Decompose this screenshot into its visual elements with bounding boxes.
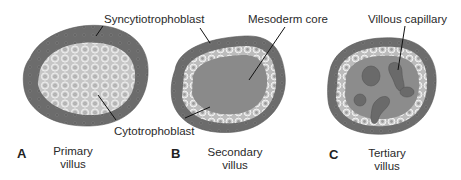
caption-tertiary-villus: Tertiary villus [352, 147, 422, 173]
caption-primary-villus: Primary villus [38, 145, 108, 171]
panel-letter-c: C [329, 147, 338, 162]
label-cytotrophoblast: Cytotrophoblast [114, 125, 195, 138]
label-villous-capillary: Villous capillary [368, 13, 447, 26]
primary-villus [23, 25, 148, 126]
caption-secondary-villus: Secondary villus [200, 146, 270, 172]
panel-letter-b: B [171, 146, 180, 161]
tertiary-villus [328, 38, 437, 134]
secondary-villus [171, 36, 285, 133]
label-syncytiotrophoblast: Syncytiotrophoblast [104, 13, 204, 26]
label-mesoderm-core: Mesoderm core [248, 13, 328, 26]
panel-letter-a: A [17, 146, 26, 161]
